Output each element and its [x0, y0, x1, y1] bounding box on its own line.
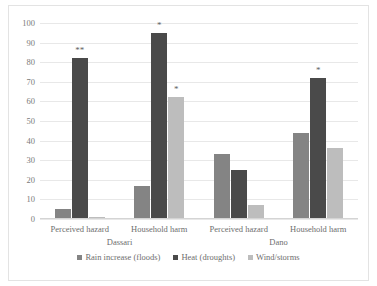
y-axis-tick-label: 90	[9, 39, 35, 47]
chart-legend: Rain increase (floods)Heat (droughts)Win…	[9, 252, 368, 262]
significance-marker: *	[168, 86, 184, 92]
gridline	[40, 219, 358, 220]
category-label: Household harm	[120, 224, 200, 234]
plot-area: *****	[40, 23, 358, 219]
y-axis-tick-label: 10	[9, 195, 35, 203]
chart-container: ***** 1009080706050403020100 Perceived h…	[8, 5, 369, 281]
significance-marker: *	[151, 22, 167, 28]
y-axis-tick-label: 50	[9, 117, 35, 125]
bar	[168, 97, 184, 219]
legend-label: Rain increase (floods)	[85, 252, 160, 262]
legend-item[interactable]: Rain increase (floods)	[77, 252, 160, 262]
y-axis-tick-label: 70	[9, 78, 35, 86]
legend-item[interactable]: Wind/storms	[248, 252, 300, 262]
x-axis-line	[40, 218, 358, 219]
panel-label: Dassari	[40, 237, 199, 247]
category-label: Perceived hazard	[40, 224, 120, 234]
bar	[310, 78, 326, 219]
y-axis-tick-label: 100	[9, 19, 35, 27]
panel-label: Dano	[199, 237, 358, 247]
significance-marker: *	[310, 67, 326, 73]
significance-marker: **	[72, 47, 88, 53]
bar	[231, 170, 247, 219]
y-axis-tick-label: 0	[9, 215, 35, 223]
category-label: Household harm	[279, 224, 359, 234]
bar	[293, 133, 309, 219]
gridline	[40, 23, 358, 24]
legend-swatch-icon	[77, 255, 82, 260]
bar	[151, 33, 167, 219]
legend-swatch-icon	[248, 255, 253, 260]
y-axis-tick-label: 30	[9, 156, 35, 164]
bar	[327, 148, 343, 219]
bar	[134, 186, 150, 219]
y-axis-tick-label: 20	[9, 176, 35, 184]
y-axis-tick-label: 80	[9, 58, 35, 66]
bar	[214, 154, 230, 219]
bar	[72, 58, 88, 219]
y-axis-tick-label: 60	[9, 97, 35, 105]
legend-item[interactable]: Heat (droughts)	[173, 252, 235, 262]
gridline	[40, 43, 358, 44]
legend-label: Wind/storms	[256, 252, 300, 262]
category-label: Perceived hazard	[199, 224, 279, 234]
y-axis-tick-label: 40	[9, 137, 35, 145]
legend-label: Heat (droughts)	[181, 252, 235, 262]
legend-swatch-icon	[173, 255, 178, 260]
bar	[248, 205, 264, 219]
